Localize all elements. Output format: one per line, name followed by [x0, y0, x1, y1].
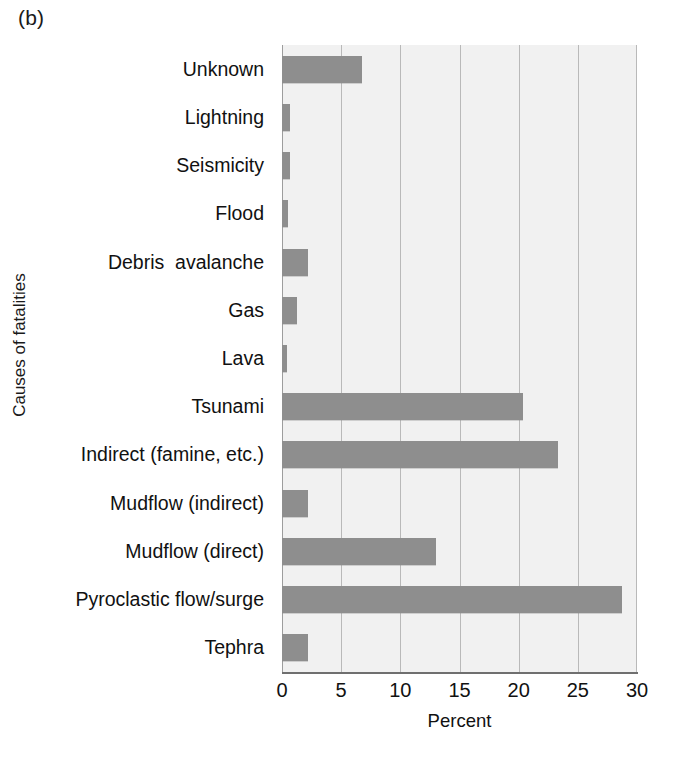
x-tick-label: 5 [336, 679, 347, 702]
category-label: Tephra [36, 624, 274, 672]
category-label: Unknown [36, 45, 274, 93]
bar[interactable] [282, 104, 290, 131]
category-label: Tsunami [36, 383, 274, 431]
category-label: Seismicity [36, 141, 274, 189]
bar-row [282, 383, 637, 431]
bar[interactable] [282, 345, 287, 372]
bar[interactable] [282, 249, 308, 276]
category-label: Debris avalanche [36, 238, 274, 286]
category-axis-labels: UnknownLightningSeismicityFloodDebris av… [36, 45, 274, 672]
x-tick-label: 0 [276, 679, 287, 702]
category-label: Gas [36, 286, 274, 334]
bar[interactable] [282, 200, 288, 227]
category-label: Indirect (famine, etc.) [36, 431, 274, 479]
bar-row [282, 624, 637, 672]
bar-row [282, 141, 637, 189]
x-tick-label: 10 [389, 679, 411, 702]
bar[interactable] [282, 586, 622, 613]
x-tick-label: 25 [567, 679, 589, 702]
category-label: Pyroclastic flow/surge [36, 576, 274, 624]
bar-row [282, 190, 637, 238]
bar-row [282, 334, 637, 382]
x-tick-label: 15 [448, 679, 470, 702]
bar-row [282, 238, 637, 286]
bar-row [282, 431, 637, 479]
plot-area [282, 45, 637, 672]
x-tick-label: 30 [626, 679, 648, 702]
x-tick-label: 20 [508, 679, 530, 702]
bars-layer [282, 45, 637, 672]
category-label: Lightning [36, 93, 274, 141]
category-label: Lava [36, 334, 274, 382]
y-axis-title: Causes of fatalities [0, 0, 40, 690]
bar-row [282, 45, 637, 93]
bar[interactable] [282, 152, 290, 179]
bar-row [282, 93, 637, 141]
category-label: Flood [36, 190, 274, 238]
bar[interactable] [282, 297, 297, 324]
x-axis-title: Percent [282, 710, 637, 732]
x-axis-line [282, 672, 638, 674]
bar[interactable] [282, 56, 362, 83]
x-axis-tick-labels: 051015202530 [282, 679, 637, 707]
bar[interactable] [282, 538, 436, 565]
bar[interactable] [282, 441, 558, 468]
bar[interactable] [282, 393, 523, 420]
category-label: Mudflow (indirect) [36, 479, 274, 527]
bar[interactable] [282, 490, 308, 517]
y-axis-title-text: Causes of fatalities [10, 273, 30, 417]
bar-row [282, 527, 637, 575]
category-label: Mudflow (direct) [36, 527, 274, 575]
bar[interactable] [282, 634, 308, 661]
bar-row [282, 479, 637, 527]
bar-row [282, 286, 637, 334]
bar-row [282, 576, 637, 624]
